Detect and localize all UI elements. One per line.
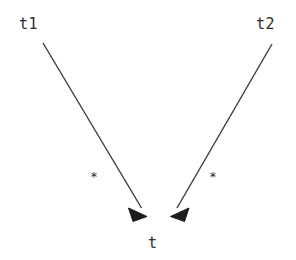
- multiplicity-label-right: *: [209, 170, 217, 183]
- multiplicity-label-left: *: [90, 170, 98, 183]
- edge-t2-to-t: [171, 44, 273, 222]
- node-label-t: t: [148, 236, 158, 251]
- edge-line-right: [177, 44, 272, 208]
- node-label-t2: t2: [256, 17, 275, 32]
- arrowhead-right-icon: [171, 208, 190, 222]
- association-diagram: t1 t2 t * *: [0, 0, 296, 260]
- diagram-canvas: [0, 0, 296, 260]
- arrowhead-left-icon: [129, 208, 148, 222]
- node-label-t1: t1: [19, 17, 38, 32]
- edge-t1-to-t: [43, 43, 147, 222]
